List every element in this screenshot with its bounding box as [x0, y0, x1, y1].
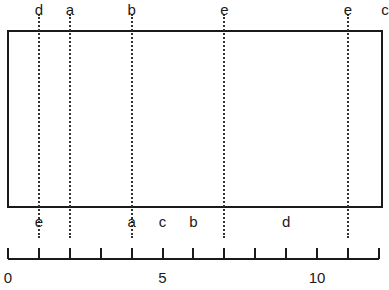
bottom-label: c — [159, 214, 167, 229]
top-label: b — [127, 2, 135, 17]
dotted-line — [347, 14, 349, 238]
scale-tick — [69, 248, 71, 259]
top-label: e — [220, 2, 228, 17]
dotted-line — [131, 14, 133, 238]
bottom-label: e — [35, 214, 43, 229]
bottom-label: b — [189, 214, 197, 229]
scale-tick — [38, 248, 40, 259]
top-label: a — [66, 2, 74, 17]
scale-tick — [316, 248, 318, 259]
scale-tick-label: 0 — [4, 269, 12, 286]
rectangle-region — [7, 30, 383, 208]
top-label: d — [35, 2, 43, 17]
scale-tick — [223, 248, 225, 259]
top-label: c — [381, 2, 389, 17]
scale-tick — [347, 248, 349, 259]
scale-tick — [192, 248, 194, 259]
scale-tick — [378, 248, 380, 259]
scale-tick-label: 10 — [309, 269, 326, 286]
scale-tick — [162, 248, 164, 259]
scale-tick — [7, 248, 9, 259]
dotted-line — [223, 14, 225, 238]
scale-tick — [285, 248, 287, 259]
scale-tick — [100, 248, 102, 259]
scale-tick — [254, 248, 256, 259]
top-label: e — [344, 2, 352, 17]
scale-tick-label: 5 — [158, 269, 166, 286]
bottom-label: a — [127, 214, 135, 229]
dotted-line — [38, 14, 40, 238]
dotted-line — [69, 14, 71, 238]
scale-tick — [131, 248, 133, 259]
bottom-label: d — [282, 214, 290, 229]
